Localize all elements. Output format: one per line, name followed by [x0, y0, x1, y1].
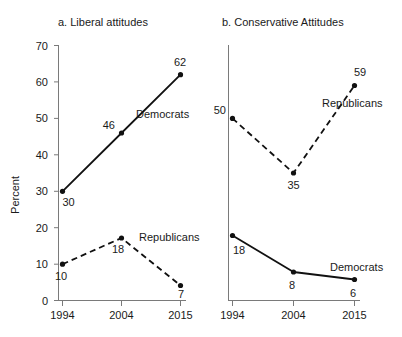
panel-a-democrats-value-2004: 46 [103, 119, 115, 131]
panel-a-republicans-value-2004: 18 [112, 243, 124, 255]
panel-b-democrats-value-2004: 8 [289, 279, 295, 291]
panel-a-democrats-point-2015 [178, 72, 183, 77]
panel-a: a. Liberal attitudes 70 60 50 40 30 20 1… [9, 16, 200, 321]
panel-b-republicans-value-2015: 59 [354, 66, 366, 78]
panel-a-republicans-value-1994: 10 [55, 270, 67, 282]
panel-a-xtick-label-2015: 2015 [168, 309, 192, 321]
panel-b-republicans-value-1994: 50 [214, 104, 226, 116]
panel-b-democrats-series-label: Democrats [330, 261, 384, 273]
panel-b-xtick-label-1994: 1994 [220, 309, 244, 321]
panel-b-democrats-point-2004 [291, 269, 296, 274]
panel-b-democrats-value-2015: 6 [350, 287, 356, 299]
two-panel-line-chart: a. Liberal attitudes 70 60 50 40 30 20 1… [0, 0, 402, 337]
panel-a-y-axis-label: Percent [9, 176, 21, 214]
panel-a-ytick-label-10: 10 [36, 258, 48, 270]
panel-b-republicans-point-2004 [291, 170, 296, 175]
panel-b-republicans-point-1994 [230, 116, 235, 121]
panel-a-democrats-point-2004 [119, 130, 124, 135]
panel-b-xtick-label-2004: 2004 [281, 309, 305, 321]
panel-a-ytick-label-20: 20 [36, 222, 48, 234]
panel-a-republicans-value-2015: 7 [178, 288, 184, 300]
panel-a-ytick-label-70: 70 [36, 40, 48, 52]
panel-a-democrats-value-2015: 62 [174, 56, 186, 68]
panel-b-republicans-point-2015 [352, 83, 357, 88]
panel-a-ytick-label-0: 0 [42, 295, 48, 307]
panel-a-ytick-label-30: 30 [36, 185, 48, 197]
panel-b-xtick-label-2015: 2015 [342, 309, 366, 321]
panel-a-democrats-point-1994 [60, 189, 65, 194]
panel-a-democrats-value-1994: 30 [63, 196, 75, 208]
panel-a-title: a. Liberal attitudes [58, 16, 148, 28]
panel-a-xtick-label-1994: 1994 [50, 309, 74, 321]
panel-b-democrats-point-2015 [352, 277, 357, 282]
panel-b-democrats-point-1994 [230, 233, 235, 238]
panel-a-republicans-point-1994 [60, 262, 65, 267]
panel-a-republicans-series-label: Republicans [139, 231, 200, 243]
panel-b-title: b. Conservative Attitudes [222, 16, 344, 28]
panel-b-republicans-series-label: Republicans [322, 97, 383, 109]
panel-a-republicans-point-2004 [119, 235, 124, 240]
figure-container: a. Liberal attitudes 70 60 50 40 30 20 1… [0, 0, 402, 337]
panel-a-xtick-label-2004: 2004 [109, 309, 133, 321]
panel-b-republicans-value-2004: 35 [287, 179, 299, 191]
panel-a-democrats-series-label: Democrats [136, 108, 190, 120]
panel-a-ytick-label-40: 40 [36, 149, 48, 161]
panel-b: b. Conservative Attitudes 1994 2004 2015… [214, 16, 384, 321]
panel-a-ytick-label-60: 60 [36, 76, 48, 88]
panel-b-democrats-value-1994: 18 [233, 244, 245, 256]
panel-a-ytick-label-50: 50 [36, 112, 48, 124]
